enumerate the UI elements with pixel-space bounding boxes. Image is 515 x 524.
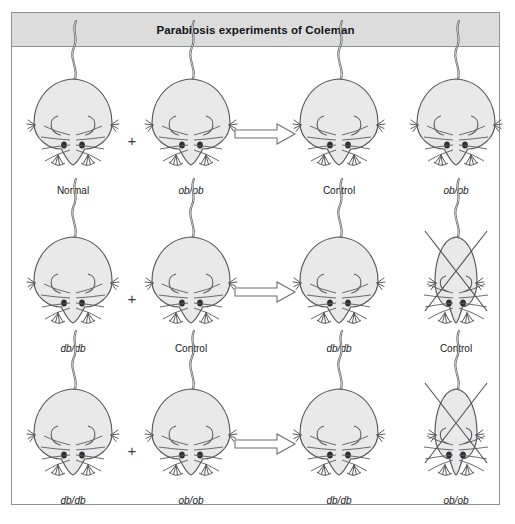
right-arrow-icon — [234, 123, 296, 145]
mouse-label: db/db — [8, 495, 138, 506]
mouse-illustration — [143, 363, 239, 495]
mouse-illustration — [291, 363, 387, 495]
mouse-input: db/db — [8, 207, 138, 365]
mouse-art — [143, 211, 239, 343]
mouse-art — [291, 363, 387, 495]
mouse-body — [152, 79, 230, 165]
mouse-art — [143, 363, 239, 495]
plus-separator: + — [128, 291, 137, 306]
mouse-body — [152, 389, 230, 475]
result-arrow — [234, 281, 296, 303]
mouse-label: ob/ob — [126, 495, 256, 506]
mouse-art — [25, 53, 121, 185]
mouse-illustration — [408, 211, 504, 343]
plus-separator: + — [128, 443, 137, 458]
mouse-label: db/db — [8, 343, 138, 354]
mouse-outcome: Control — [391, 207, 515, 365]
mouse-label: Control — [274, 185, 404, 196]
mouse-body — [417, 79, 495, 165]
mouse-illustration — [408, 363, 504, 495]
mouse-illustration — [25, 211, 121, 343]
mouse-illustration — [291, 53, 387, 185]
mouse-label: ob/ob — [391, 495, 515, 506]
mouse-body — [34, 79, 112, 165]
mouse-outcome: ob/ob — [391, 49, 515, 207]
mouse-input: db/db — [8, 359, 138, 517]
mouse-art — [291, 53, 387, 185]
mouse-art — [143, 53, 239, 185]
mouse-label: db/db — [274, 343, 404, 354]
right-arrow-icon — [234, 281, 296, 303]
mouse-body — [300, 237, 378, 323]
mouse-input: Normal — [8, 49, 138, 207]
result-arrow — [234, 433, 296, 455]
mouse-art — [25, 363, 121, 495]
page-title: Parabiosis experiments of Coleman — [156, 24, 354, 36]
mouse-label: db/db — [274, 495, 404, 506]
mouse-illustration — [143, 53, 239, 185]
row-dbdb-obob: db/db ob/ob — [12, 359, 499, 517]
mouse-label: Control — [126, 343, 256, 354]
mouse-label: Control — [391, 343, 515, 354]
mouse-art — [291, 211, 387, 343]
mouse-illustration — [25, 53, 121, 185]
figure-frame: Parabiosis experiments of Coleman Normal — [11, 12, 500, 505]
result-arrow — [234, 123, 296, 145]
mouse-illustration — [408, 53, 504, 185]
mouse-body — [152, 237, 230, 323]
mouse-illustration — [291, 211, 387, 343]
mouse-art — [408, 363, 504, 495]
mouse-outcome: ob/ob — [391, 359, 515, 517]
mouse-body — [34, 389, 112, 475]
row-dbdb-control: db/db Control — [12, 207, 499, 365]
mouse-body — [34, 237, 112, 323]
right-arrow-icon — [234, 433, 296, 455]
row-obob-normal: Normal ob/ob — [12, 49, 499, 207]
mouse-body — [300, 79, 378, 165]
figure-title-bar: Parabiosis experiments of Coleman — [12, 13, 499, 47]
mouse-art — [408, 53, 504, 185]
mouse-illustration — [25, 363, 121, 495]
plus-separator: + — [128, 133, 137, 148]
mouse-illustration — [143, 211, 239, 343]
mouse-label: ob/ob — [126, 185, 256, 196]
mouse-art — [25, 211, 121, 343]
mouse-label: ob/ob — [391, 185, 515, 196]
mouse-body — [300, 389, 378, 475]
mouse-label: Normal — [8, 185, 138, 196]
mouse-art — [408, 211, 504, 343]
